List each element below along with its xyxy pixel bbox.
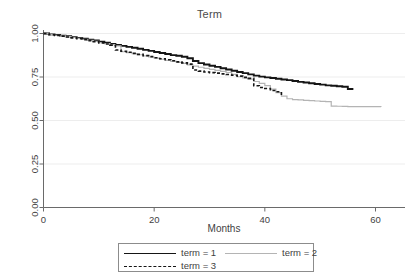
x-axis-tick-label: 20 <box>149 214 160 225</box>
series-curves <box>44 34 382 107</box>
legend-label-term-3: term = 3 <box>181 260 216 271</box>
plot-area: 0.000.250.500.751.00 0204060 Months <box>0 0 419 235</box>
series-curve-1 <box>44 34 354 90</box>
legend-label-term-2: term = 2 <box>282 247 317 258</box>
legend-swatch-solid-gray-icon <box>225 248 277 258</box>
gridlines <box>44 34 406 208</box>
x-axis-ticks <box>44 208 376 212</box>
y-axis-tick-label: 0.00 <box>29 198 40 217</box>
legend: term = 1 term = 2 term = 3 <box>118 243 314 272</box>
series-curve-2 <box>44 34 382 107</box>
y-axis-ticks <box>40 34 44 208</box>
series-curve-3 <box>44 34 282 96</box>
legend-item-term-2[interactable]: term = 2 <box>225 246 317 259</box>
axis-lines <box>44 30 406 208</box>
x-axis-tick-label: 40 <box>260 214 271 225</box>
x-axis-tick-label: 0 <box>41 214 46 225</box>
legend-item-term-3[interactable]: term = 3 <box>124 259 216 272</box>
y-axis-tick-label: 0.50 <box>29 111 40 130</box>
y-axis-tick-labels: 0.000.250.500.751.00 <box>29 24 40 217</box>
legend-swatch-dashed-black-icon <box>124 261 176 271</box>
legend-label-term-1: term = 1 <box>181 247 216 258</box>
x-axis-title: Months <box>208 223 241 234</box>
legend-item-term-1[interactable]: term = 1 <box>124 246 216 259</box>
legend-swatch-solid-black-icon <box>124 248 176 258</box>
survival-chart-figure: Term 0.000.250.500.751.00 0204060 Months… <box>0 0 419 280</box>
y-axis-tick-label: 0.75 <box>29 68 40 87</box>
y-axis-tick-label: 1.00 <box>29 24 40 43</box>
y-axis-tick-label: 0.25 <box>29 155 40 174</box>
x-axis-tick-label: 60 <box>370 214 381 225</box>
